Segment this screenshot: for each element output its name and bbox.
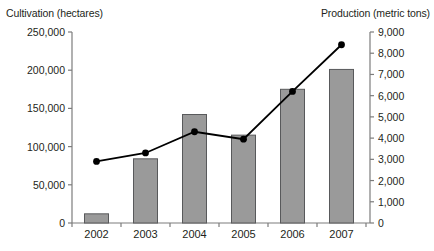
dual-axis-chart: Cultivation (hectares) Production (metri… (0, 0, 434, 251)
bar-2007 (330, 69, 354, 223)
bar-2005 (232, 135, 256, 223)
x-tick-label-2003: 2003 (133, 228, 157, 240)
right-tick-label: 5,000 (378, 112, 404, 123)
x-tick-label-2006: 2006 (280, 228, 304, 240)
x-tick-label-2004: 2004 (182, 228, 206, 240)
bar-2003 (134, 159, 158, 223)
bar-2006 (281, 89, 305, 223)
right-tick-label: 1,000 (378, 197, 404, 208)
x-tick-label-2002: 2002 (84, 228, 108, 240)
left-tick-label: 250,000 (27, 27, 65, 38)
right-tick-label: 4,000 (378, 133, 404, 144)
right-tick-label: 8,000 (378, 48, 404, 59)
right-tick-label: 3,000 (378, 154, 404, 165)
x-tick-label-2005: 2005 (231, 228, 255, 240)
left-tick-label: 200,000 (27, 65, 65, 76)
right-tick-label: 0 (378, 218, 384, 229)
line-marker-2003 (142, 150, 149, 157)
left-tick-label: 0 (59, 218, 65, 229)
bar-2002 (85, 214, 109, 223)
line-marker-2004 (191, 128, 198, 135)
right-tick-label: 9,000 (378, 27, 404, 38)
line-marker-2005 (240, 136, 247, 143)
line-marker-2002 (93, 158, 100, 165)
left-tick-label: 100,000 (27, 141, 65, 152)
left-tick-label: 150,000 (27, 103, 65, 114)
x-tick-label-2007: 2007 (329, 228, 353, 240)
line-marker-2007 (338, 41, 345, 48)
right-tick-label: 6,000 (378, 90, 404, 101)
right-tick-label: 7,000 (378, 69, 404, 80)
chart-plot-area (0, 0, 434, 251)
right-tick-label: 2,000 (378, 175, 404, 186)
left-tick-label: 50,000 (33, 180, 65, 191)
line-marker-2006 (289, 88, 296, 95)
